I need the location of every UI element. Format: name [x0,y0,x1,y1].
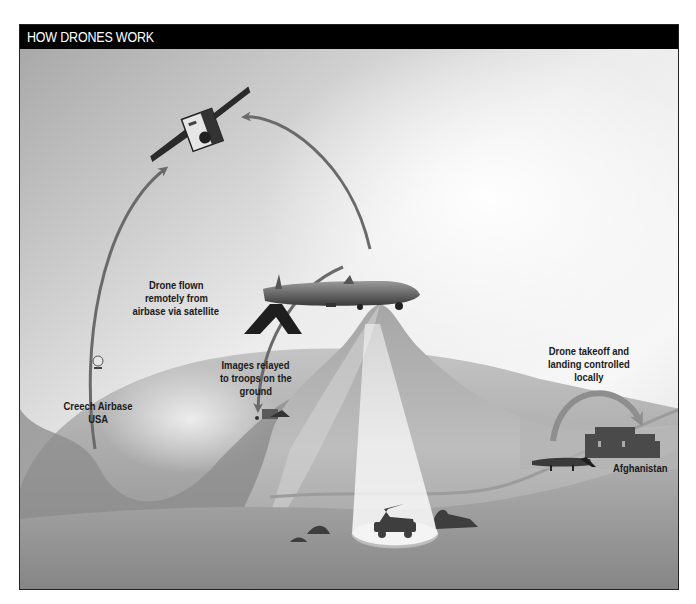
label-local-control: Drone takeoff and landing controlled loc… [524,345,654,384]
header-bar: HOW DRONES WORK [20,25,678,49]
label-airbase: Creech Airbase USA [38,400,158,426]
scene: Drone flown remotely from airbase via sa… [20,49,679,590]
label-afghanistan: Afghanistan [595,462,679,475]
page-title: HOW DRONES WORK [27,25,154,49]
label-images-relayed: Images relayed to troops on the ground [196,359,316,398]
scene-illustration [20,49,679,590]
infographic-frame: HOW DRONES WORK [19,24,679,590]
label-satellite-link: Drone flown remotely from airbase via sa… [106,279,246,318]
